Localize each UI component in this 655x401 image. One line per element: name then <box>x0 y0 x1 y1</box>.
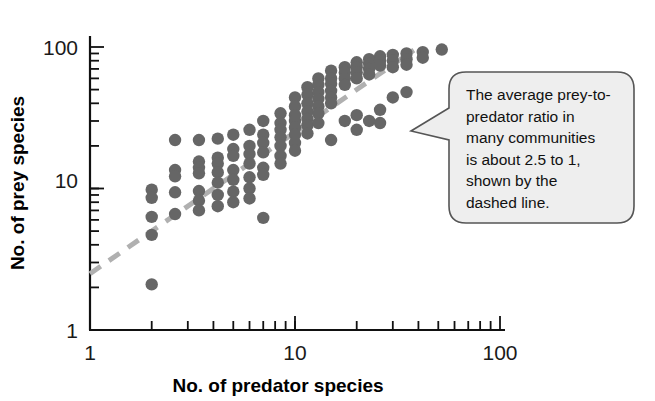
data-point <box>400 58 412 70</box>
data-point <box>374 59 386 71</box>
data-point <box>257 115 269 127</box>
data-point <box>339 115 351 127</box>
data-point <box>257 146 269 158</box>
x-tick-label-1: 1 <box>84 341 96 364</box>
data-point <box>351 124 363 136</box>
scatter-plot: 100 10 1 1 10 100 No. of predator specie… <box>0 0 655 401</box>
data-point <box>212 132 224 144</box>
data-point <box>193 167 205 179</box>
data-point <box>146 192 158 204</box>
data-point <box>169 186 181 198</box>
x-axis-title: No. of predator species <box>172 375 383 396</box>
data-point <box>243 124 255 136</box>
y-tick-label-10: 10 <box>55 169 78 192</box>
data-point <box>169 170 181 182</box>
callout-line: is about 2.5 to 1, <box>466 151 581 168</box>
data-point <box>312 117 324 129</box>
data-point <box>351 109 363 121</box>
y-tick-label-1: 1 <box>66 319 78 342</box>
data-point <box>289 145 301 157</box>
data-point <box>363 115 375 127</box>
data-point <box>227 196 239 208</box>
y-tick-label-100: 100 <box>43 36 78 59</box>
data-point <box>243 171 255 183</box>
data-point <box>146 211 158 223</box>
data-point <box>243 157 255 169</box>
data-point <box>227 150 239 162</box>
data-point <box>212 176 224 188</box>
callout-line: shown by the <box>466 172 557 189</box>
x-tick-label-10: 10 <box>283 341 306 364</box>
data-point <box>363 68 375 80</box>
data-point <box>146 278 158 290</box>
data-point <box>339 79 351 91</box>
data-point <box>417 52 429 64</box>
data-point <box>387 91 399 103</box>
data-point <box>374 117 386 129</box>
figure-root: 100 10 1 1 10 100 No. of predator specie… <box>0 0 655 401</box>
data-point <box>387 61 399 73</box>
data-point <box>227 185 239 197</box>
callout-line: many communities <box>466 129 595 146</box>
data-point <box>400 86 412 98</box>
data-point <box>193 134 205 146</box>
data-point <box>227 129 239 141</box>
data-point <box>212 200 224 212</box>
data-point <box>436 43 448 55</box>
callout-line: The average prey-to- <box>466 86 611 103</box>
data-point <box>146 229 158 241</box>
data-point <box>257 169 269 181</box>
callout-line: dashed line. <box>466 194 550 211</box>
data-point <box>227 174 239 186</box>
data-point <box>351 72 363 84</box>
callout-line: predator ratio in <box>466 108 575 125</box>
data-point <box>274 157 286 169</box>
data-point <box>325 134 337 146</box>
data-point <box>169 208 181 220</box>
data-point <box>374 104 386 116</box>
data-point <box>257 212 269 224</box>
y-axis-title: No. of prey species <box>7 96 28 270</box>
data-point <box>301 127 313 139</box>
data-point <box>325 97 337 109</box>
data-point <box>212 189 224 201</box>
data-point <box>243 192 255 204</box>
data-point <box>193 204 205 216</box>
data-point <box>169 134 181 146</box>
x-tick-label-100: 100 <box>482 341 517 364</box>
